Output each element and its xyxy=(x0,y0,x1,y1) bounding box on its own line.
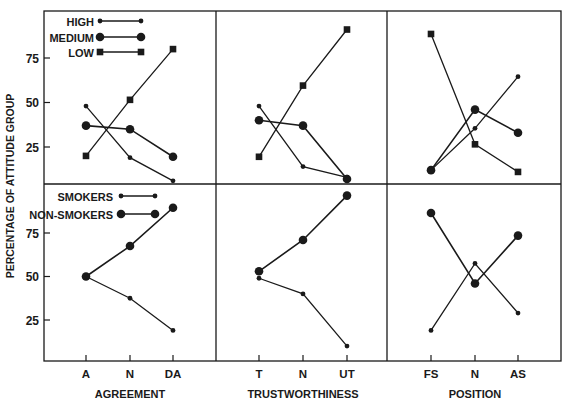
large-dot-marker xyxy=(471,105,480,114)
series-low xyxy=(428,31,522,176)
legend-item-low: LOW xyxy=(68,47,144,59)
legend-item-high: HIGH xyxy=(67,16,144,28)
series-line xyxy=(86,106,173,181)
square-marker xyxy=(138,49,145,56)
x-tick-label: T xyxy=(255,368,262,380)
large-dot-marker xyxy=(96,33,105,42)
square-marker xyxy=(428,31,435,38)
small-dot-marker xyxy=(516,311,521,316)
x-tick-label: DA xyxy=(165,368,182,380)
panel-smoking-trustworthiness xyxy=(255,191,352,348)
legend-label: MEDIUM xyxy=(49,32,94,44)
legend: HIGHMEDIUMLOWSMOKERSNON-SMOKERS xyxy=(29,16,159,221)
x-tick-label: N xyxy=(471,368,479,380)
large-dot-marker xyxy=(126,242,135,251)
large-dot-marker xyxy=(117,210,126,219)
large-dot-marker xyxy=(151,210,160,219)
large-dot-marker xyxy=(427,209,436,218)
y-axis: 255075255075PERCENTAGE OF ATTITUDE GROUP xyxy=(4,52,50,328)
series-line xyxy=(431,263,518,330)
large-dot-marker xyxy=(169,152,178,161)
y-tick-label: 25 xyxy=(26,141,40,155)
large-dot-marker xyxy=(514,231,523,240)
large-dot-marker xyxy=(255,267,264,276)
large-dot-marker xyxy=(471,279,480,288)
square-marker xyxy=(170,46,177,53)
small-dot-marker xyxy=(98,19,103,24)
x-axis-title: AGREEMENT xyxy=(95,388,166,400)
series-line xyxy=(259,30,347,157)
small-dot-marker xyxy=(171,328,176,333)
legend-label: HIGH xyxy=(67,16,95,28)
square-marker xyxy=(344,26,351,33)
x-tick-label: UT xyxy=(339,368,354,380)
plot-area xyxy=(82,26,523,348)
large-dot-marker xyxy=(343,191,352,200)
large-dot-marker xyxy=(255,116,264,125)
square-marker xyxy=(300,82,307,89)
series-non-smokers xyxy=(427,209,523,288)
legend-item-non-smokers: NON-SMOKERS xyxy=(29,209,159,221)
small-dot-marker xyxy=(473,126,478,131)
square-marker xyxy=(515,169,522,176)
series-line xyxy=(86,277,173,331)
panel-smoking-agreement xyxy=(82,203,178,332)
x-tick-label: AS xyxy=(510,368,526,380)
series-line xyxy=(431,213,518,283)
square-marker xyxy=(127,97,134,104)
x-axis-title: TRUSTWORTHINESS xyxy=(247,388,358,400)
square-marker xyxy=(83,153,90,160)
series-low xyxy=(83,46,177,159)
small-dot-marker xyxy=(345,344,350,349)
chart-figure: 255075255075PERCENTAGE OF ATTITUDE GROUP… xyxy=(0,0,572,408)
large-dot-marker xyxy=(169,203,178,212)
square-marker xyxy=(256,153,263,160)
square-marker xyxy=(97,49,104,56)
x-axis: ANDAAGREEMENTTNUTTRUSTWORTHINESSFSNASPOS… xyxy=(82,355,526,400)
series-medium xyxy=(82,121,178,161)
chart-frame xyxy=(44,11,561,361)
y-tick-label: 75 xyxy=(26,227,40,241)
large-dot-marker xyxy=(299,121,308,130)
series-line xyxy=(259,278,347,346)
x-tick-label: FS xyxy=(424,368,439,380)
y-tick-label: 50 xyxy=(26,96,40,110)
large-dot-marker xyxy=(82,272,91,281)
legend-label: SMOKERS xyxy=(57,191,113,203)
series-smokers xyxy=(429,261,521,333)
y-tick-label: 75 xyxy=(26,52,40,66)
series-medium xyxy=(255,116,352,183)
large-dot-marker xyxy=(137,33,146,42)
large-dot-marker xyxy=(82,121,91,130)
y-tick-label: 25 xyxy=(26,314,40,328)
legend-item-smokers: SMOKERS xyxy=(57,191,157,203)
large-dot-marker xyxy=(343,175,352,184)
x-tick-label: N xyxy=(126,368,134,380)
small-dot-marker xyxy=(429,328,434,333)
y-tick-label: 50 xyxy=(26,270,40,284)
series-line xyxy=(431,110,518,171)
panel-attitude-agreement xyxy=(82,46,178,183)
small-dot-marker xyxy=(516,74,521,79)
large-dot-marker xyxy=(427,166,436,175)
small-dot-marker xyxy=(301,164,306,169)
legend-label: NON-SMOKERS xyxy=(29,209,113,221)
legend-label: LOW xyxy=(68,47,94,59)
x-tick-label: N xyxy=(299,368,307,380)
small-dot-marker xyxy=(257,276,262,281)
large-dot-marker xyxy=(514,128,523,137)
small-dot-marker xyxy=(119,194,124,199)
large-dot-marker xyxy=(126,125,135,134)
legend-item-medium: MEDIUM xyxy=(49,32,145,44)
x-tick-label: A xyxy=(82,368,90,380)
series-high xyxy=(429,74,521,172)
small-dot-marker xyxy=(257,104,262,109)
panel-attitude-position xyxy=(427,31,523,176)
series-high xyxy=(257,104,350,180)
series-medium xyxy=(427,105,523,174)
small-dot-marker xyxy=(171,178,176,183)
outer-border xyxy=(44,11,561,361)
small-dot-marker xyxy=(153,194,158,199)
y-axis-title: PERCENTAGE OF ATTITUDE GROUP xyxy=(4,94,16,279)
series-line xyxy=(431,77,518,170)
